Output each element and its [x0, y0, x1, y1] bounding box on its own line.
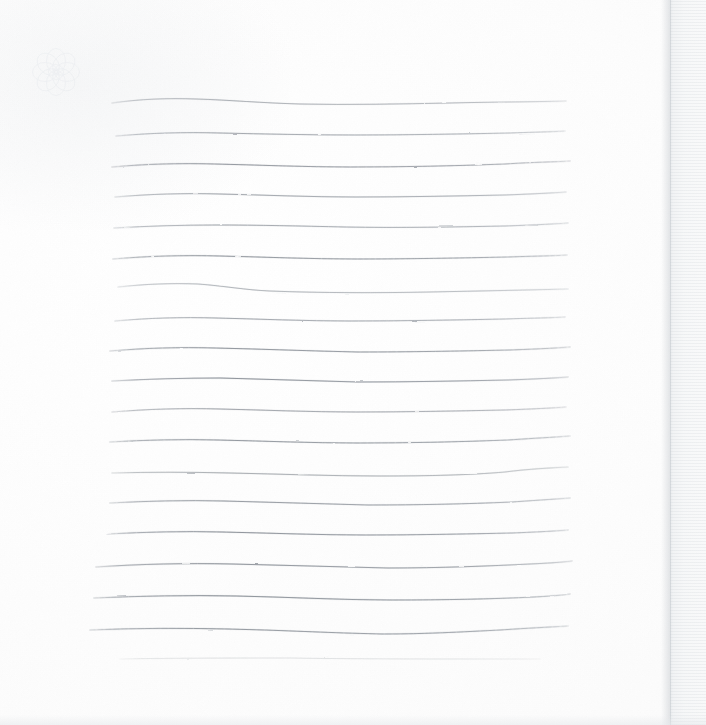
paper-sheet [0, 0, 706, 725]
artboard [0, 0, 706, 725]
